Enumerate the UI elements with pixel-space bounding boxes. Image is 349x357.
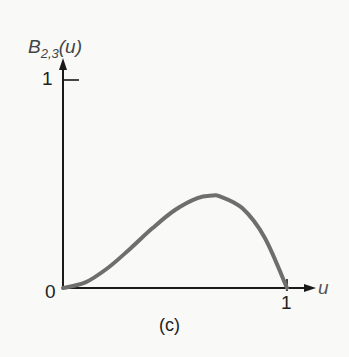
x-axis-label: u bbox=[318, 277, 329, 299]
origin-label: 0 bbox=[45, 281, 56, 303]
y-axis-label: B2,3(u) bbox=[28, 36, 82, 61]
y-tick-label-1: 1 bbox=[42, 68, 53, 90]
x-tick-label-1: 1 bbox=[281, 292, 292, 314]
x-axis-arrow-icon bbox=[304, 284, 316, 292]
basis-function-curve bbox=[63, 195, 287, 288]
figure-caption: (c) bbox=[159, 315, 180, 336]
